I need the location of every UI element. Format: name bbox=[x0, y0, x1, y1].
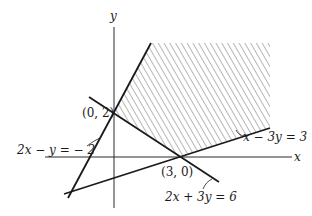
point-label-0-2: (0, 2) bbox=[82, 106, 114, 120]
y-axis-label: y bbox=[109, 9, 117, 23]
x-axis-label: x bbox=[294, 150, 301, 164]
equation-label-2x-minus-y: 2x − y = − 2 bbox=[16, 143, 95, 157]
equation-label-2x-plus-3y: 2x + 3y = 6 bbox=[164, 190, 237, 204]
leader-2x-plus-3y bbox=[203, 179, 212, 189]
diagram-canvas: y x (0, 2) (3, 0) 2x − y = − 2 x − 3y = … bbox=[0, 0, 312, 216]
equation-label-x-minus-3y: x − 3y = 3 bbox=[243, 130, 308, 144]
point-label-3-0: (3, 0) bbox=[161, 165, 193, 179]
